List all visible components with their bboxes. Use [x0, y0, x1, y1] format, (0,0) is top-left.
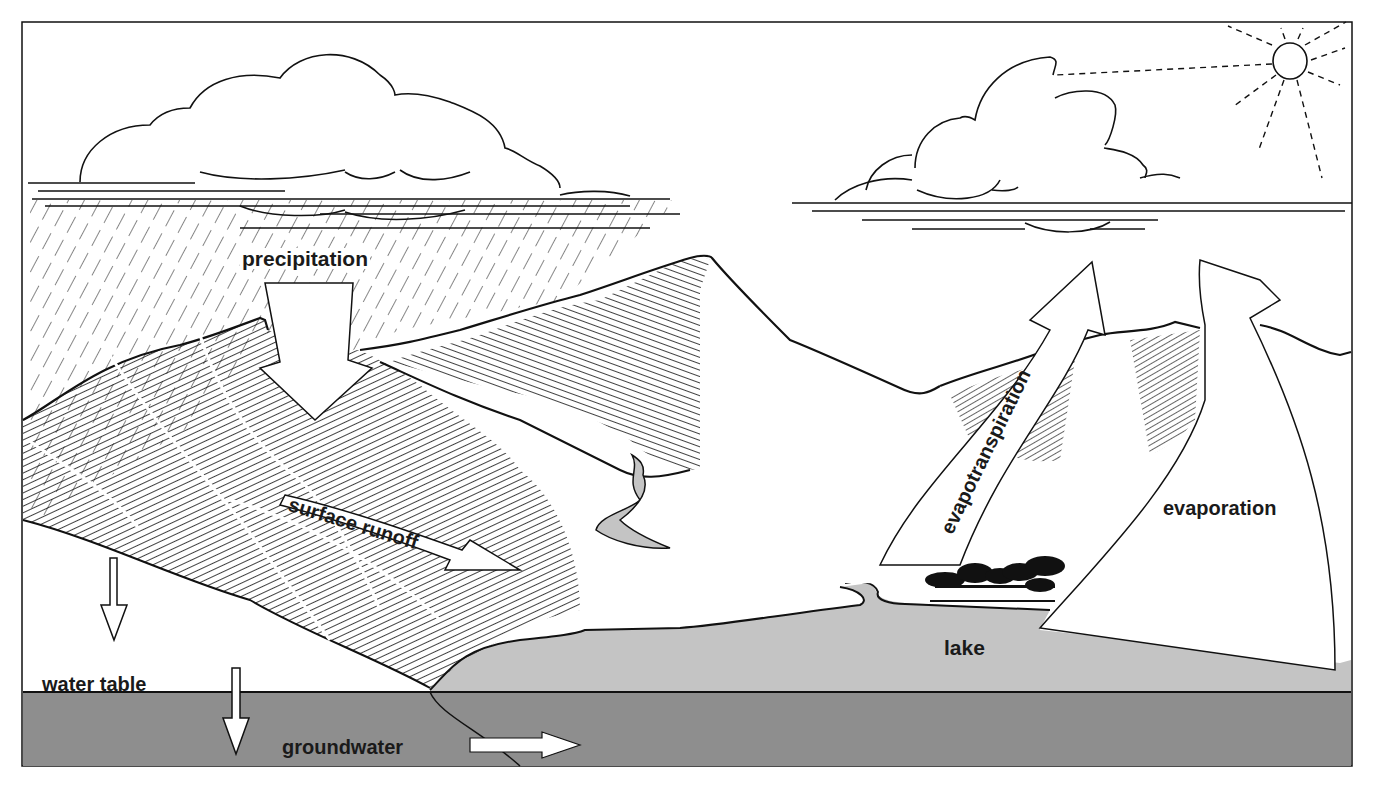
- label-water-table: water table: [42, 674, 146, 694]
- label-groundwater: groundwater: [282, 737, 403, 757]
- label-evaporation: evaporation: [1163, 498, 1276, 518]
- label-lake: lake: [944, 637, 985, 658]
- label-precipitation: precipitation: [240, 248, 370, 269]
- hydrologic-cycle-diagram: [0, 0, 1377, 790]
- groundwater-layer: [23, 692, 1351, 766]
